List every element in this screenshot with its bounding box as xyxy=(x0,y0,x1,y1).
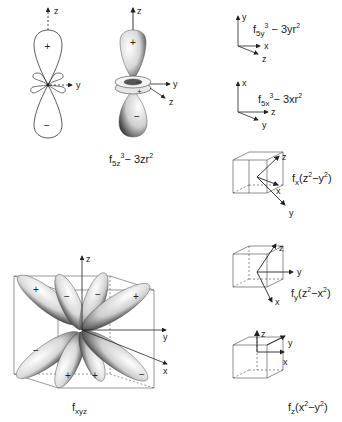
y-axis-label: y xyxy=(163,332,168,342)
y-axis-label: y xyxy=(76,80,81,90)
sign: + xyxy=(65,370,71,381)
sign-upper: + xyxy=(45,41,51,52)
y-axis xyxy=(238,112,258,120)
z-axis-label: z xyxy=(86,254,91,264)
right-axis-label: x xyxy=(264,41,269,51)
panel-fxyz: + − − + − + + − z y x fxyz xyxy=(11,254,168,416)
nucleus xyxy=(46,83,49,86)
sign-lower: − xyxy=(134,111,140,122)
y-axis xyxy=(257,177,285,205)
sign: + xyxy=(133,291,139,302)
cube-edge xyxy=(267,152,283,160)
z-axis-label: z xyxy=(137,6,142,16)
caption-fxyz: fxyz xyxy=(72,401,87,416)
sign: + xyxy=(92,370,98,381)
c-axis-label: y xyxy=(289,208,294,218)
diag-axis-label: y xyxy=(262,120,267,130)
sign: + xyxy=(33,284,39,295)
small-lobe-ul xyxy=(33,73,48,85)
lower-lobe-3d xyxy=(119,90,147,137)
z-axis xyxy=(257,244,276,272)
z-axis-label: z xyxy=(54,6,59,16)
x-axis-label: x xyxy=(163,366,168,376)
sign-lower: − xyxy=(44,120,50,131)
diag-axis-label: z xyxy=(262,54,267,64)
small-lobe-ur xyxy=(48,73,63,85)
diag-axis-label: z xyxy=(169,97,174,107)
panel-fy-z2-x2: z y x fy(z2−x2) xyxy=(233,243,331,307)
panel-f5z3-outline: z + − y xyxy=(31,6,81,138)
z-axis xyxy=(257,156,279,177)
panel-f5y3: y x z f5y3 − 3yr2 xyxy=(238,12,300,64)
panel-f5z3-3d: z + − − + y z f5z3− 3zr2 xyxy=(109,6,178,168)
f-orbital-figure: z + − y z + − − + y z f5 xyxy=(0,0,342,422)
small-lobe-ll xyxy=(31,85,48,93)
sign-upper: + xyxy=(130,37,136,48)
a-axis-label: z xyxy=(282,152,287,162)
z-axis xyxy=(238,46,258,54)
y-axis-label: y xyxy=(173,79,178,89)
diag-axis-label: x xyxy=(283,357,288,367)
cube-hidden-edge xyxy=(233,185,249,193)
caption-fx-z2-y2: fx(z2−y2) xyxy=(292,171,332,187)
caption-fz-x2-y2: fz(x2−y2) xyxy=(288,400,328,416)
panel-fz-x2-y2: z x y fz(x2−y2) xyxy=(233,329,328,416)
x-axis xyxy=(257,177,278,185)
sign: − xyxy=(33,345,39,356)
up-axis-label: x xyxy=(242,78,247,88)
sign-ring-bottom: + xyxy=(137,87,142,96)
panel-fx-z2-y2: z x y fx(z2−y2) xyxy=(233,152,332,218)
up-axis-label: z xyxy=(261,329,266,339)
b-axis-label: x xyxy=(276,186,281,196)
caption-fy-z2-x2: fy(z2−x2) xyxy=(291,286,331,302)
right-axis-label: z xyxy=(271,107,276,117)
cube-outline xyxy=(233,246,283,287)
sign: − xyxy=(64,291,70,302)
small-lobe-lr xyxy=(48,85,65,93)
caption-f5z3: f5z3− 3zr2 xyxy=(109,152,153,168)
panel-f5x3: x z y f5x3− 3xr2 xyxy=(238,78,302,130)
upper-lobe xyxy=(34,30,62,85)
c-axis-label: x xyxy=(275,297,280,307)
a-axis-label: z xyxy=(279,243,284,253)
cube-hidden-edge xyxy=(233,279,249,287)
sign: − xyxy=(139,369,145,380)
cube-hidden-edge xyxy=(233,370,249,378)
sign: − xyxy=(95,289,101,300)
b-axis-label: y xyxy=(297,267,302,277)
y-axis xyxy=(267,336,285,345)
sign-ring-top: − xyxy=(136,78,141,87)
caption-f5y3: f5y3 − 3yr2 xyxy=(253,22,300,38)
cube-outline xyxy=(233,337,283,378)
diag-axis xyxy=(150,88,165,98)
right-axis-label: y xyxy=(288,338,293,348)
up-axis-label: y xyxy=(242,12,247,22)
caption-f5x3: f5x3− 3xr2 xyxy=(258,92,302,108)
